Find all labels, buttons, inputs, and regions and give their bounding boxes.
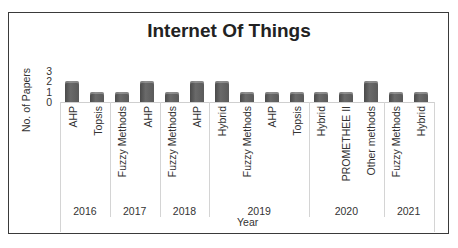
category-label: AHP: [266, 106, 278, 128]
bar: [115, 92, 129, 102]
category-label: Topsis: [91, 106, 103, 136]
category-label: Hybrid: [415, 106, 427, 136]
category-label: Fuzzy Methods: [390, 106, 402, 177]
bar: [364, 81, 378, 102]
group-separator: [209, 102, 210, 217]
category-label: AHP: [191, 106, 203, 128]
group-separator: [160, 102, 161, 217]
bar: [389, 92, 403, 102]
y-axis-label: No. of Papers: [20, 68, 32, 132]
bar: [290, 92, 304, 102]
bar: [90, 92, 104, 102]
bar: [165, 92, 179, 102]
category-label: Fuzzy Methods: [241, 106, 253, 177]
chart-title: Internet Of Things: [0, 20, 458, 42]
y-tick: 3: [42, 66, 52, 76]
year-label: 2020: [309, 205, 384, 217]
y-tick: 1: [42, 87, 52, 97]
year-label: 2021: [384, 205, 434, 217]
x-axis-label: Year: [237, 216, 258, 228]
bar: [265, 92, 279, 102]
category-label: Hybrid: [315, 106, 327, 136]
category-label: Fuzzy Methods: [166, 106, 178, 177]
category-label: Topsis: [291, 106, 303, 136]
category-label: PROMETHEE II: [340, 106, 352, 181]
category-label: Hybrid: [216, 106, 228, 136]
category-label: Other methods: [365, 106, 377, 175]
category-label: AHP: [141, 106, 153, 128]
y-tick: 0: [42, 97, 52, 107]
bar: [339, 92, 353, 102]
group-separator: [309, 102, 310, 217]
group-separator: [434, 102, 435, 232]
bar: [314, 92, 328, 102]
bar: [140, 81, 154, 102]
y-tick: 2: [42, 76, 52, 86]
year-label: 2019: [209, 205, 309, 217]
year-label: 2016: [60, 205, 110, 217]
group-separator: [384, 102, 385, 217]
bar: [414, 92, 428, 102]
category-label: Fuzzy Methods: [116, 106, 128, 177]
plot-area: AHPTopsis2016Fuzzy MethodsAHP2017Fuzzy M…: [60, 60, 435, 235]
year-label: 2018: [160, 205, 210, 217]
year-label: 2017: [110, 205, 160, 217]
category-label: AHP: [66, 106, 78, 128]
bar: [65, 81, 79, 102]
group-separator: [110, 102, 111, 217]
bar: [190, 81, 204, 102]
bar: [215, 81, 229, 102]
bar: [240, 92, 254, 102]
x-axis-line: [60, 102, 434, 103]
